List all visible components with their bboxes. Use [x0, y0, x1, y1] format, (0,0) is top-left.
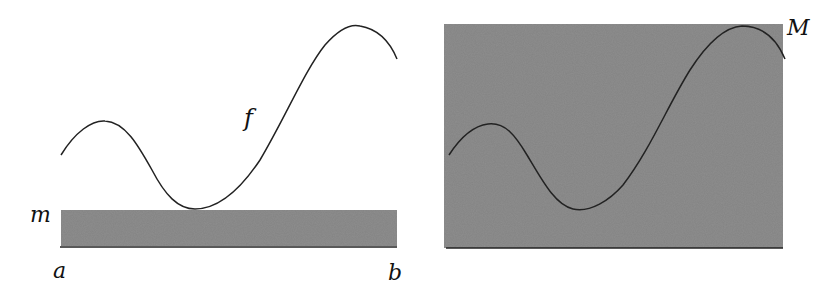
interval-end-label: b: [388, 260, 402, 285]
min-max-diagram: f m a b M: [0, 0, 838, 298]
right-figure: M: [444, 15, 810, 248]
function-curve: [61, 26, 397, 209]
left-figure: f m a b: [30, 26, 402, 285]
min-label: m: [30, 202, 51, 227]
function-label: f: [242, 104, 257, 132]
lower-bound-band: [61, 210, 397, 246]
upper-bound-region: [444, 24, 783, 248]
interval-start-label: a: [53, 258, 66, 283]
max-label: M: [786, 15, 810, 40]
